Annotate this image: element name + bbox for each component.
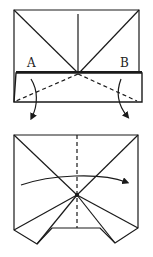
diagonal-crease-right xyxy=(77,135,138,195)
flap-right-outer xyxy=(77,195,138,228)
paper-outline xyxy=(14,135,138,244)
label-a: A xyxy=(26,56,36,70)
fold-arrow-a xyxy=(31,79,36,117)
center-point xyxy=(76,194,79,197)
origami-diagram: A B xyxy=(0,0,153,257)
flap-left-outer xyxy=(14,195,77,230)
valley-line-b xyxy=(78,74,137,101)
folded-band xyxy=(14,73,142,102)
label-b: B xyxy=(120,56,129,70)
diagonal-crease-left xyxy=(14,135,77,195)
step-2-diagram xyxy=(14,135,138,244)
flap-right-inner xyxy=(77,195,115,243)
flap-left-inner xyxy=(37,195,77,244)
fold-over-arrow xyxy=(21,176,126,185)
fold-arrow-b xyxy=(118,79,127,116)
diagonal-crease-right xyxy=(80,10,139,72)
valley-line-a xyxy=(16,74,78,101)
diagonal-crease-left xyxy=(14,10,77,72)
